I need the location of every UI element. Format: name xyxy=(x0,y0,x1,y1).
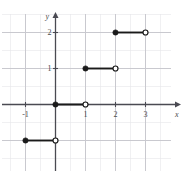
y-tick-label: 1 xyxy=(34,65,52,73)
graph-figure: y x -112312 xyxy=(0,0,187,174)
x-tick-label: 1 xyxy=(76,111,96,119)
y-tick-label: 2 xyxy=(34,29,52,37)
axis-lines xyxy=(2,12,181,171)
x-tick-label: -1 xyxy=(16,111,36,119)
x-tick-label: 3 xyxy=(136,111,156,119)
major-gridlines xyxy=(2,14,171,171)
coordinate-plane-canvas xyxy=(0,0,187,174)
y-axis-label: y xyxy=(46,13,50,21)
x-axis-label: x xyxy=(175,111,179,119)
x-tick-label: 2 xyxy=(106,111,126,119)
